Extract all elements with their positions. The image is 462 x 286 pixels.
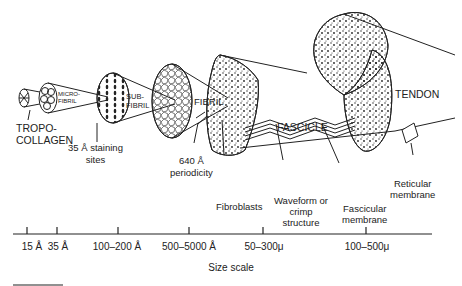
tropocollagen-label-line2: COLLAGEN (16, 134, 73, 146)
microfibril-label: MICRO- FIBRIL (58, 91, 80, 105)
waveform-line3: structure (274, 217, 328, 228)
waveform-line2: crimp (274, 206, 328, 217)
reticular-line1: Reticular (390, 178, 435, 189)
fascicle-label: FASCICLE (277, 121, 328, 133)
subfibril-label-line1: SUB- (126, 92, 149, 101)
scale-tick-label: 500–5000 Å (162, 241, 216, 252)
staining-line2: sites (68, 154, 123, 166)
fascicular-line2: membrane (342, 214, 387, 225)
fibroblasts-label: Fibroblasts (216, 201, 262, 213)
staining-sites-label: 35 Å staining sites (68, 142, 123, 166)
waveform-line1: Waveform or (274, 195, 328, 206)
reticular-membrane-shape (402, 123, 418, 143)
fascicular-line1: Fascicular (342, 203, 387, 214)
fibril-label: FIBRIL (194, 96, 224, 108)
periodicity-line1: 640 Å (170, 155, 213, 167)
subfibril-label-line2: FIBRIL (126, 101, 149, 110)
reticular-line2: membrane (390, 189, 435, 200)
microfibril-label-line1: MICRO- (58, 91, 80, 98)
fascicular-membrane-label: Fascicular membrane (342, 203, 387, 225)
tropocollagen-label-line1: TROPO- (16, 122, 73, 134)
size-scale-title: Size scale (208, 262, 254, 273)
tendon-label: TENDON (395, 88, 439, 100)
tendon-shape (314, 12, 455, 151)
reticular-membrane-label: Reticular membrane (390, 178, 435, 200)
fascicle-structures (19, 12, 455, 163)
waveform-label: Waveform or crimp structure (274, 195, 328, 228)
scale-tick-label: 100–200 Å (93, 241, 141, 252)
scale-tick-label: 15 Å (22, 241, 43, 252)
scale-tick-label: 50–300μ (244, 241, 283, 252)
periodicity-line2: periodicity (170, 167, 213, 179)
scale-tick-label: 100–500μ (345, 241, 390, 252)
periodicity-label: 640 Å periodicity (170, 155, 213, 179)
microfibril-label-line2: FIBRIL (58, 98, 80, 105)
subfibril-label: SUB- FIBRIL (126, 92, 149, 110)
size-scale-axis (13, 227, 432, 285)
scale-tick-label: 35 Å (48, 241, 69, 252)
staining-line1: 35 Å staining (68, 142, 123, 154)
tropocollagen-label: TROPO- COLLAGEN (16, 122, 73, 146)
